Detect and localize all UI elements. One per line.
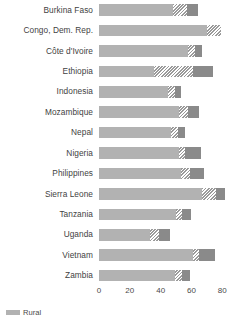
stacked-bar	[99, 45, 202, 57]
bar-segment-1	[99, 168, 181, 180]
bar-segment-3	[175, 86, 181, 98]
bar-row: Ethiopia	[0, 61, 238, 81]
bar-row: Indonesia	[0, 82, 238, 102]
stacked-bar	[99, 147, 201, 159]
bar-row: Nigeria	[0, 143, 238, 163]
bar-segment-3	[159, 229, 170, 241]
legend-label: Rural	[23, 308, 41, 317]
bar-row: Zambia	[0, 266, 238, 286]
category-label: Mozambique	[0, 102, 93, 122]
chart-legend: Rural	[0, 307, 238, 319]
category-label: Uganda	[0, 225, 93, 245]
bar-segment-1	[99, 66, 154, 78]
bar-row: Burkina Faso	[0, 0, 238, 20]
bar-row: Congo, Dem. Rep.	[0, 20, 238, 40]
bar-segment-3	[199, 249, 214, 261]
bar-segment-3	[190, 168, 204, 180]
bar-segment-3	[182, 270, 190, 282]
bar-segment-1	[99, 4, 173, 16]
bar-segment-1	[99, 86, 168, 98]
x-tick-label: 60	[187, 286, 196, 296]
stacked-bar	[99, 106, 199, 118]
stacked-bar	[99, 66, 213, 78]
bar-segment-1	[99, 188, 202, 200]
bar-segment-3	[178, 127, 186, 139]
bar-segment-1	[99, 147, 179, 159]
stacked-bar	[99, 249, 215, 261]
bar-segment-3	[188, 106, 199, 118]
bar-segment-1	[99, 249, 193, 261]
category-label: Indonesia	[0, 82, 93, 102]
bar-segment-2	[175, 270, 183, 282]
x-tick-label: 20	[125, 286, 134, 296]
category-label: Nigeria	[0, 143, 93, 163]
bar-row: Tanzania	[0, 204, 238, 224]
stacked-bar	[99, 270, 190, 282]
bar-chart: Burkina FasoCongo, Dem. Rep.Côte d'Ivoir…	[0, 0, 238, 319]
bar-segment-1	[99, 209, 176, 221]
x-tick-label: 80	[218, 286, 227, 296]
category-label: Burkina Faso	[0, 0, 93, 20]
category-label: Philippines	[0, 163, 93, 183]
bar-segment-1	[99, 45, 188, 57]
bar-segment-3	[195, 45, 203, 57]
x-tick-label: 0	[97, 286, 101, 296]
bar-segment-2	[154, 66, 193, 78]
legend-item[interactable]: Rural	[6, 308, 41, 317]
x-tick-label: 40	[156, 286, 165, 296]
bar-row: Nepal	[0, 123, 238, 143]
bar-segment-3	[187, 4, 198, 16]
legend-swatch-icon	[6, 310, 20, 315]
bar-row: Côte d'Ivoire	[0, 41, 238, 61]
bar-segment-2	[202, 188, 216, 200]
category-label: Côte d'Ivoire	[0, 41, 93, 61]
bar-segment-1	[99, 270, 175, 282]
category-label: Ethiopia	[0, 61, 93, 81]
stacked-bar	[99, 86, 181, 98]
bar-segment-2	[173, 4, 187, 16]
stacked-bar	[99, 229, 170, 241]
stacked-bar	[99, 188, 225, 200]
bar-segment-1	[99, 106, 179, 118]
category-label: Sierra Leone	[0, 184, 93, 204]
category-label: Congo, Dem. Rep.	[0, 20, 93, 40]
category-label: Nepal	[0, 123, 93, 143]
plot-area: Burkina FasoCongo, Dem. Rep.Côte d'Ivoir…	[0, 0, 238, 286]
category-label: Zambia	[0, 266, 93, 286]
bar-row: Mozambique	[0, 102, 238, 122]
bar-segment-1	[99, 229, 150, 241]
bar-segment-3	[182, 209, 191, 221]
bar-segment-2	[150, 229, 159, 241]
bar-row: Uganda	[0, 225, 238, 245]
stacked-bar	[99, 25, 221, 37]
stacked-bar	[99, 4, 198, 16]
bar-segment-1	[99, 127, 171, 139]
stacked-bar	[99, 127, 185, 139]
x-axis: 020406080	[0, 286, 238, 300]
bar-segment-2	[179, 106, 188, 118]
bar-segment-2	[181, 168, 190, 180]
stacked-bar	[99, 209, 191, 221]
bar-segment-3	[193, 66, 213, 78]
stacked-bar	[99, 168, 204, 180]
bar-segment-2	[207, 25, 221, 37]
category-label: Vietnam	[0, 245, 93, 265]
bar-row: Vietnam	[0, 245, 238, 265]
bar-row: Philippines	[0, 163, 238, 183]
bar-segment-3	[185, 147, 200, 159]
category-label: Tanzania	[0, 204, 93, 224]
bar-segment-1	[99, 25, 207, 37]
bar-segment-3	[216, 188, 225, 200]
bar-row: Sierra Leone	[0, 184, 238, 204]
